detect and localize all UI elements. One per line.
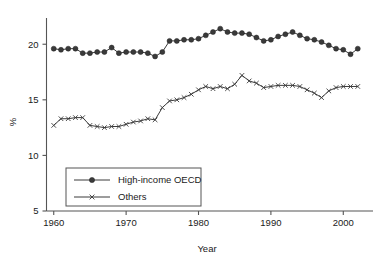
data-point-marker <box>116 51 121 56</box>
data-point-marker <box>102 50 107 55</box>
data-point-marker <box>87 51 92 56</box>
data-point-marker <box>138 50 143 55</box>
data-point-marker <box>167 38 172 43</box>
data-point-marker <box>240 73 245 78</box>
data-point-marker <box>153 54 158 59</box>
y-tick-label: 5 <box>33 205 38 216</box>
data-point-marker <box>160 50 165 55</box>
line-chart: 510152019601970198019902000 High-income … <box>0 0 380 265</box>
data-point-marker <box>305 36 310 41</box>
data-point-marker <box>268 37 273 42</box>
data-point-marker <box>348 52 353 57</box>
chart-legend: High-income OECDOthers <box>66 168 202 206</box>
chart-container: 510152019601970198019902000 High-income … <box>0 0 380 265</box>
series-high-income-oecd <box>51 26 360 59</box>
data-point-marker <box>225 30 230 35</box>
data-point-marker <box>247 32 252 37</box>
data-series-group <box>51 26 360 130</box>
x-tick-label: 1990 <box>260 217 281 228</box>
y-tick-label: 10 <box>28 150 39 161</box>
data-point-marker <box>95 50 100 55</box>
data-point-marker <box>297 33 302 38</box>
data-point-marker <box>66 46 71 51</box>
legend-label: Others <box>118 191 147 202</box>
data-point-marker <box>319 95 324 100</box>
data-point-marker <box>218 26 223 31</box>
data-point-marker <box>232 31 237 36</box>
data-point-marker <box>131 50 136 55</box>
data-point-marker <box>109 45 114 50</box>
data-point-marker <box>145 51 150 56</box>
data-point-marker <box>210 30 215 35</box>
data-point-marker <box>189 37 194 42</box>
data-point-marker <box>196 88 201 93</box>
data-point-marker <box>239 31 244 36</box>
data-point-marker <box>254 35 259 40</box>
data-point-marker <box>124 50 129 55</box>
data-point-marker <box>73 46 78 51</box>
data-point-marker <box>203 33 208 38</box>
data-point-marker <box>182 37 187 42</box>
data-point-marker <box>355 46 360 51</box>
data-point-marker <box>196 36 201 41</box>
data-point-marker <box>327 89 332 94</box>
data-point-marker <box>319 40 324 45</box>
series-line <box>54 75 358 127</box>
data-point-marker <box>261 38 266 43</box>
y-axis-title: % <box>7 117 18 126</box>
data-point-marker <box>341 47 346 52</box>
series-others <box>51 73 360 130</box>
x-tick-label: 2000 <box>333 217 354 228</box>
data-point-marker <box>51 46 56 51</box>
x-tick-label: 1980 <box>188 217 209 228</box>
data-point-marker <box>290 30 295 35</box>
x-tick-label: 1960 <box>43 217 64 228</box>
data-point-marker <box>276 34 281 39</box>
x-axis-title: Year <box>197 243 216 254</box>
data-point-marker <box>174 38 179 43</box>
data-point-marker <box>283 32 288 37</box>
data-point-marker <box>312 37 317 42</box>
legend-label: High-income OECD <box>118 174 202 185</box>
data-point-marker <box>232 82 237 87</box>
data-point-marker <box>58 47 63 52</box>
data-point-marker <box>312 91 317 96</box>
data-point-marker <box>189 92 194 97</box>
y-tick-label: 15 <box>28 94 39 105</box>
x-tick-label: 1970 <box>116 217 137 228</box>
data-point-marker <box>326 43 331 48</box>
data-point-marker <box>80 51 85 56</box>
legend-marker-circle-icon <box>89 177 94 182</box>
data-point-marker <box>51 123 56 128</box>
y-tick-label: 20 <box>28 39 39 50</box>
data-point-marker <box>160 105 165 110</box>
data-point-marker <box>305 88 310 93</box>
data-point-marker <box>334 46 339 51</box>
